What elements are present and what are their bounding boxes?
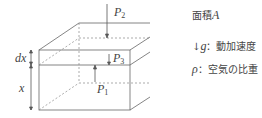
dx-label: dx	[15, 52, 26, 64]
legend-area: 面積A	[192, 9, 219, 21]
p1-label: P1	[97, 83, 108, 97]
p3-label: P3	[113, 52, 124, 66]
legend-gravity: ↓g：動加速度	[192, 40, 256, 52]
air-column-box-diagram	[0, 0, 262, 118]
p2-label: P2	[114, 6, 125, 20]
legend-density: ρ：空気の比重	[192, 63, 258, 75]
x-label: x	[19, 82, 24, 94]
